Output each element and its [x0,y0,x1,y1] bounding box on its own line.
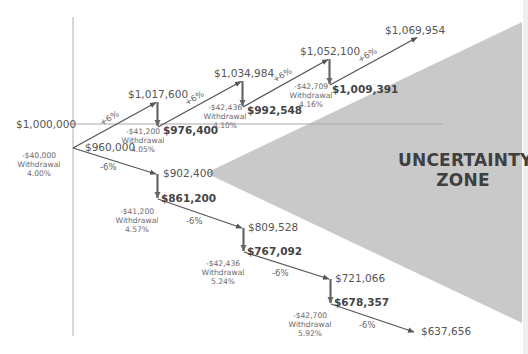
up-withdrawal-1-label: Withdrawal [118,136,168,145]
down-after-3: $678,357 [334,297,389,308]
withdrawal-diagram: UNCERTAINTY ZONE $1,000,000 -$40,000 Wit… [0,0,528,354]
down-after-1: $861,200 [161,193,216,204]
down-withdrawal-1-rate: 4.57% [112,225,162,234]
down-withdrawal-2-label: Withdrawal [198,268,248,277]
down-withdrawal-1: -$41,200 Withdrawal 4.57% [112,207,162,234]
start-withdrawal: -$40,000 Withdrawal 4.00% [14,151,64,178]
up-withdrawal-3-rate: 4.16% [286,100,336,109]
down-after-2: $767,092 [247,246,302,257]
down-trough-1: $902,400 [163,168,213,179]
down-trough-2: $809,528 [248,222,298,233]
baseline-label: $1,000,000 [16,119,76,130]
up-withdrawal-1-rate: 4.05% [118,145,168,154]
up-withdrawal-2: -$42,436 Withdrawal 4.10% [200,103,250,130]
start-withdrawal-label: Withdrawal [14,160,64,169]
up-withdrawal-3-label: Withdrawal [286,91,336,100]
down-change-2: -6% [186,217,203,226]
down-trough-4: $637,656 [421,326,471,337]
zone-label-line2: ZONE [398,170,528,190]
down-withdrawal-1-label: Withdrawal [112,216,162,225]
up-peak-3: $1,052,100 [300,46,360,57]
zone-label-line1: UNCERTAINTY [398,150,528,170]
down-withdrawal-2-rate: 5.24% [198,277,248,286]
up-withdrawal-1: -$41,200 Withdrawal 4.05% [118,127,168,154]
down-withdrawal-3-label: Withdrawal [285,320,335,329]
up-peak-2: $1,034,984 [214,68,274,79]
up-withdrawal-2-label: Withdrawal [200,112,250,121]
down-change-4: -6% [359,321,376,330]
up-peak-4: $1,069,954 [385,25,445,36]
down-withdrawal-3-amount: -$42,700 [285,311,335,320]
uncertainty-zone-label: UNCERTAINTY ZONE [398,150,528,190]
down-withdrawal-2-amount: -$42,436 [198,259,248,268]
up-peak-1: $1,017,600 [128,89,188,100]
down-withdrawal-1-amount: -$41,200 [112,207,162,216]
down-withdrawal-3-rate: 5.92% [285,329,335,338]
down-change-1: -6% [100,163,117,172]
down-withdrawal-3: -$42,700 Withdrawal 5.92% [285,311,335,338]
down-withdrawal-2: -$42,436 Withdrawal 5.24% [198,259,248,286]
start-withdrawal-amount: -$40,000 [14,151,64,160]
up-withdrawal-3-amount: -$42,709 [286,82,336,91]
up-after-3: $1,009,391 [332,84,398,95]
down-trough-3: $721,066 [335,273,385,284]
up-withdrawal-3: -$42,709 Withdrawal 4.16% [286,82,336,109]
up-withdrawal-2-amount: -$42,436 [200,103,250,112]
down-change-3: -6% [272,269,289,278]
up-withdrawal-2-rate: 4.10% [200,121,250,130]
start-withdrawal-rate: 4.00% [14,169,64,178]
up-withdrawal-1-amount: -$41,200 [118,127,168,136]
